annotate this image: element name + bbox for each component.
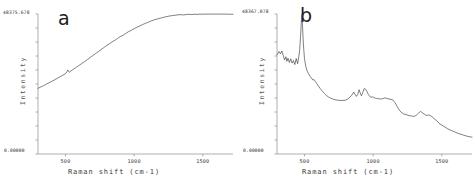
panel-a-plot [0, 0, 237, 183]
panel-b-x-ticks [304, 154, 441, 157]
panel-b-axes [277, 14, 472, 154]
panel-a-y-ticks [36, 14, 39, 154]
x-tick-label: 1500 [196, 158, 209, 164]
x-tick-label: 500 [61, 158, 71, 164]
panel-a-spectrum-curve [38, 14, 233, 88]
x-tick-label: 1500 [435, 158, 448, 164]
x-tick-label: 500 [300, 158, 310, 164]
panel-b-plot [238, 0, 475, 183]
x-tick-label: 1000 [127, 158, 140, 164]
panel-b-spectrum-curve [277, 14, 472, 137]
raman-spectra-figure: a 48375.678 0.00000 Intensity Raman shif… [0, 0, 475, 183]
panel-a: a 48375.678 0.00000 Intensity Raman shif… [0, 0, 237, 183]
x-tick-label: 1000 [366, 158, 379, 164]
panel-a-axes [38, 14, 233, 154]
panel-a-x-ticks [65, 154, 202, 157]
panel-b-y-ticks [275, 14, 278, 154]
panel-b: b 48367.078 0.00000 Intensity Raman shif… [238, 0, 475, 183]
